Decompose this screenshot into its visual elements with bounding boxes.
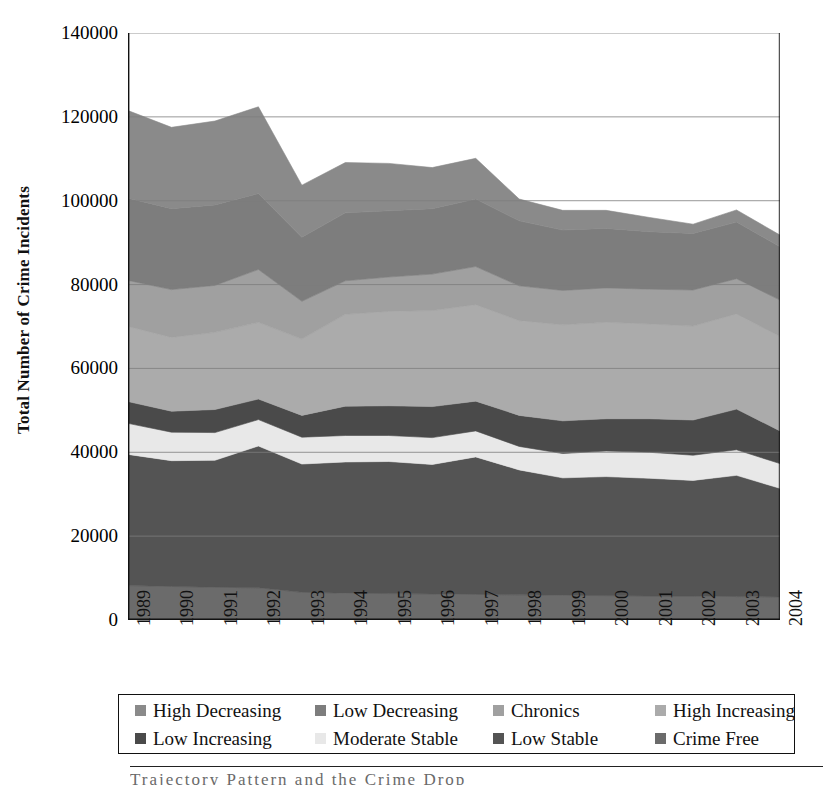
x-tick-label: 2002 <box>700 556 718 626</box>
y-tick-label: 60000 <box>18 358 118 377</box>
legend-swatch-icon <box>655 733 666 744</box>
legend-label: Chronics <box>511 701 580 720</box>
legend-item[interactable]: Low Decreasing <box>315 701 458 720</box>
x-tick-label: 1999 <box>570 556 588 626</box>
legend-row-2: Low IncreasingModerate StableLow StableC… <box>119 723 794 753</box>
legend-swatch-icon <box>493 705 504 716</box>
legend-label: High Decreasing <box>153 701 281 720</box>
footer-divider <box>130 766 823 767</box>
chart-figure: Total Number of Crime Incidents 14000012… <box>0 0 823 785</box>
x-tick-label: 2000 <box>613 556 631 626</box>
legend-label: Low Stable <box>511 729 598 748</box>
legend-item[interactable]: High Increasing <box>655 701 795 720</box>
legend-label: Crime Free <box>673 729 759 748</box>
legend-item[interactable]: Moderate Stable <box>315 729 458 748</box>
x-tick-label: 2003 <box>744 556 762 626</box>
plot-area <box>128 33 780 620</box>
x-tick-label: 1989 <box>135 556 153 626</box>
legend-item[interactable]: Crime Free <box>655 729 759 748</box>
legend-label: Moderate Stable <box>333 729 458 748</box>
x-tick-label: 1991 <box>222 556 240 626</box>
x-tick-label: 2001 <box>657 556 675 626</box>
y-tick-label: 140000 <box>18 23 118 42</box>
x-tick-label: 1995 <box>396 556 414 626</box>
y-tick-label: 120000 <box>18 107 118 126</box>
x-tick-label: 1998 <box>526 556 544 626</box>
legend-item[interactable]: High Decreasing <box>135 701 281 720</box>
legend-swatch-icon <box>493 733 504 744</box>
x-tick-label: 1993 <box>309 556 327 626</box>
legend-row-1: High DecreasingLow DecreasingChronicsHig… <box>119 695 794 725</box>
legend-item[interactable]: Low Stable <box>493 729 598 748</box>
legend-swatch-icon <box>315 733 326 744</box>
stacked-area-plot <box>128 33 780 620</box>
footer-caption: Trajectory Pattern and the Crime Drop <box>130 770 820 785</box>
y-axis-tick-labels: 140000120000100000800006000040000200000 <box>8 0 118 785</box>
legend-label: Low Decreasing <box>333 701 458 720</box>
legend-swatch-icon <box>135 733 146 744</box>
y-tick-label: 40000 <box>18 442 118 461</box>
x-tick-label: 2004 <box>787 556 805 626</box>
x-tick-label: 1997 <box>483 556 501 626</box>
x-tick-label: 1994 <box>352 556 370 626</box>
legend-label: Low Increasing <box>153 729 272 748</box>
legend-swatch-icon <box>135 705 146 716</box>
legend-swatch-icon <box>655 705 666 716</box>
y-tick-label: 0 <box>18 610 118 629</box>
chart-legend: High DecreasingLow DecreasingChronicsHig… <box>118 694 795 754</box>
y-tick-label: 80000 <box>18 275 118 294</box>
legend-label: High Increasing <box>673 701 795 720</box>
x-tick-label: 1990 <box>178 556 196 626</box>
x-tick-label: 1992 <box>265 556 283 626</box>
y-tick-label: 100000 <box>18 191 118 210</box>
legend-item[interactable]: Chronics <box>493 701 580 720</box>
legend-item[interactable]: Low Increasing <box>135 729 272 748</box>
x-tick-label: 1996 <box>439 556 457 626</box>
x-axis-tick-labels: 1989199019911992199319941995199619971998… <box>128 626 780 696</box>
legend-swatch-icon <box>315 705 326 716</box>
y-tick-label: 20000 <box>18 526 118 545</box>
